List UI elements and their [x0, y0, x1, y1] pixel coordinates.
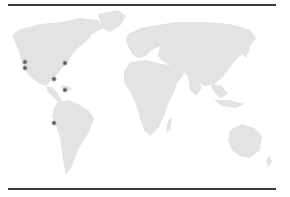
australia [228, 124, 262, 158]
location-marker-us-east[interactable] [63, 61, 68, 66]
bottom-rule [8, 188, 276, 190]
location-marker-gulf[interactable] [52, 77, 57, 82]
new-zealand [266, 156, 272, 168]
north-america [12, 18, 104, 86]
location-marker-ecuador[interactable] [52, 121, 57, 126]
madagascar [166, 118, 172, 132]
europe [126, 26, 164, 58]
location-marker-us-west-north[interactable] [23, 60, 28, 65]
central-america [46, 86, 62, 102]
southeast-asia [210, 84, 228, 98]
location-marker-us-west-south[interactable] [23, 66, 28, 71]
indonesia [214, 100, 244, 108]
world-map [0, 0, 290, 197]
location-marker-caribbean[interactable] [63, 88, 68, 93]
south-america [52, 100, 94, 174]
